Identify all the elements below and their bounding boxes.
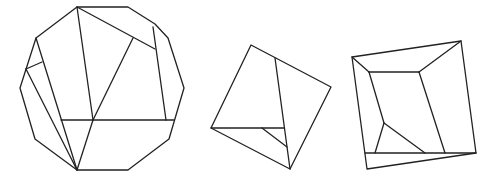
- cut-line: [369, 72, 384, 123]
- outline-polygon: [20, 7, 184, 170]
- dissection-diagram: [0, 0, 496, 187]
- outline-polygon: [211, 45, 331, 169]
- cut-line: [93, 38, 133, 120]
- cut-line: [77, 7, 93, 120]
- square-dissection: [211, 45, 331, 169]
- cut-line: [384, 123, 425, 153]
- cut-line: [77, 7, 155, 49]
- outline-polygon: [352, 41, 476, 169]
- cut-line: [375, 123, 384, 153]
- cut-line: [36, 38, 77, 170]
- cut-line: [419, 72, 445, 153]
- cut-line: [352, 57, 369, 72]
- cut-line: [153, 27, 166, 120]
- dodecagon-dissection: [20, 7, 184, 170]
- cut-line: [77, 120, 93, 170]
- cut-line: [275, 58, 290, 169]
- cut-line: [262, 128, 287, 147]
- quadrilateral-dissection: [352, 41, 476, 169]
